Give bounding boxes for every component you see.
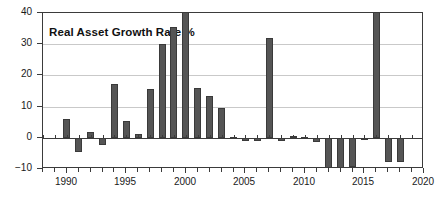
- zero-axis-tick: [67, 135, 68, 139]
- x-tick-mark: [256, 168, 257, 172]
- x-tick-mark: [221, 168, 222, 172]
- bar: [373, 12, 380, 138]
- x-tick-mark: [268, 168, 269, 172]
- x-tick-mark: [90, 168, 91, 172]
- zero-axis-tick: [150, 135, 151, 139]
- zero-axis-tick: [317, 135, 318, 139]
- bar: [325, 138, 332, 168]
- x-tick-mark: [411, 168, 412, 172]
- x-tick-label: 2000: [165, 176, 205, 187]
- y-tick-label: 0: [2, 132, 32, 142]
- zero-axis-tick: [162, 135, 163, 139]
- x-tick-mark: [66, 168, 67, 173]
- x-tick-mark: [209, 168, 210, 172]
- x-tick-mark: [125, 168, 126, 173]
- x-tick-mark: [42, 168, 43, 172]
- x-tick-mark: [113, 168, 114, 172]
- x-tick-mark: [149, 168, 150, 172]
- gridline: [43, 107, 422, 108]
- x-tick-mark: [340, 168, 341, 172]
- x-tick-mark: [137, 168, 138, 172]
- y-tick-label: 10: [2, 101, 32, 111]
- zero-axis-tick: [269, 135, 270, 139]
- y-tick-mark: [37, 137, 42, 138]
- x-tick-mark: [292, 168, 293, 172]
- x-tick-mark: [387, 168, 388, 172]
- zero-axis-tick: [79, 135, 80, 139]
- x-tick-mark: [244, 168, 245, 173]
- y-tick-mark: [37, 12, 42, 13]
- zero-axis-tick: [222, 135, 223, 139]
- gridline: [43, 44, 422, 45]
- x-tick-mark: [78, 168, 79, 172]
- zero-axis-tick: [281, 135, 282, 139]
- zero-axis-tick: [103, 135, 104, 139]
- x-tick-label: 2005: [224, 176, 264, 187]
- x-tick-mark: [233, 168, 234, 172]
- bar: [337, 138, 344, 168]
- x-tick-mark: [316, 168, 317, 172]
- zero-axis-tick: [210, 135, 211, 139]
- x-tick-label: 1995: [105, 176, 145, 187]
- zero-axis-tick: [257, 135, 258, 139]
- bar: [397, 138, 404, 162]
- bar: [111, 84, 118, 138]
- zero-axis-tick: [55, 135, 56, 139]
- bar: [349, 138, 356, 167]
- zero-axis-tick: [186, 135, 187, 139]
- zero-axis-tick: [293, 135, 294, 139]
- zero-axis-tick: [174, 135, 175, 139]
- y-tick-label: 20: [2, 69, 32, 79]
- y-tick-mark: [37, 74, 42, 75]
- y-tick-label: −10: [2, 163, 32, 173]
- zero-axis-tick: [353, 135, 354, 139]
- bar: [266, 38, 273, 138]
- bar: [385, 138, 392, 162]
- zero-axis-tick: [43, 135, 44, 139]
- zero-axis-tick: [91, 135, 92, 139]
- bar: [75, 138, 82, 152]
- zero-axis-tick: [400, 135, 401, 139]
- y-tick-mark: [37, 106, 42, 107]
- zero-axis-tick: [388, 135, 389, 139]
- zero-axis-tick: [198, 135, 199, 139]
- gridline: [43, 75, 422, 76]
- bar: [194, 88, 201, 138]
- x-tick-mark: [304, 168, 305, 173]
- bar: [170, 27, 177, 138]
- bar: [218, 108, 225, 138]
- x-tick-mark: [161, 168, 162, 172]
- x-tick-label: 2015: [343, 176, 383, 187]
- zero-axis-tick: [412, 135, 413, 139]
- bar: [159, 44, 166, 138]
- zero-axis-tick: [138, 135, 139, 139]
- zero-axis-tick: [245, 135, 246, 139]
- x-tick-mark: [375, 168, 376, 172]
- x-tick-mark: [185, 168, 186, 173]
- bar: [182, 12, 189, 138]
- x-tick-mark: [280, 168, 281, 172]
- x-tick-label: 1990: [46, 176, 86, 187]
- x-tick-mark: [197, 168, 198, 172]
- x-tick-mark: [363, 168, 364, 173]
- y-tick-label: 30: [2, 38, 32, 48]
- y-tick-mark: [37, 43, 42, 44]
- zero-axis-tick: [234, 135, 235, 139]
- x-tick-mark: [102, 168, 103, 172]
- real-asset-growth-rate-chart: Real Asset Growth Rate % 403020100−10 19…: [0, 0, 447, 204]
- x-tick-mark: [54, 168, 55, 172]
- zero-axis-tick: [329, 135, 330, 139]
- y-tick-label: 40: [2, 7, 32, 17]
- bar: [206, 96, 213, 137]
- zero-axis-tick: [305, 135, 306, 139]
- zero-axis-tick: [341, 135, 342, 139]
- zero-axis-tick: [126, 135, 127, 139]
- x-tick-label: 2010: [284, 176, 324, 187]
- x-tick-mark: [352, 168, 353, 172]
- bar: [147, 89, 154, 137]
- x-tick-mark: [423, 168, 424, 173]
- x-tick-mark: [399, 168, 400, 172]
- zero-axis-tick: [376, 135, 377, 139]
- x-tick-label: 2020: [403, 176, 443, 187]
- x-tick-mark: [328, 168, 329, 172]
